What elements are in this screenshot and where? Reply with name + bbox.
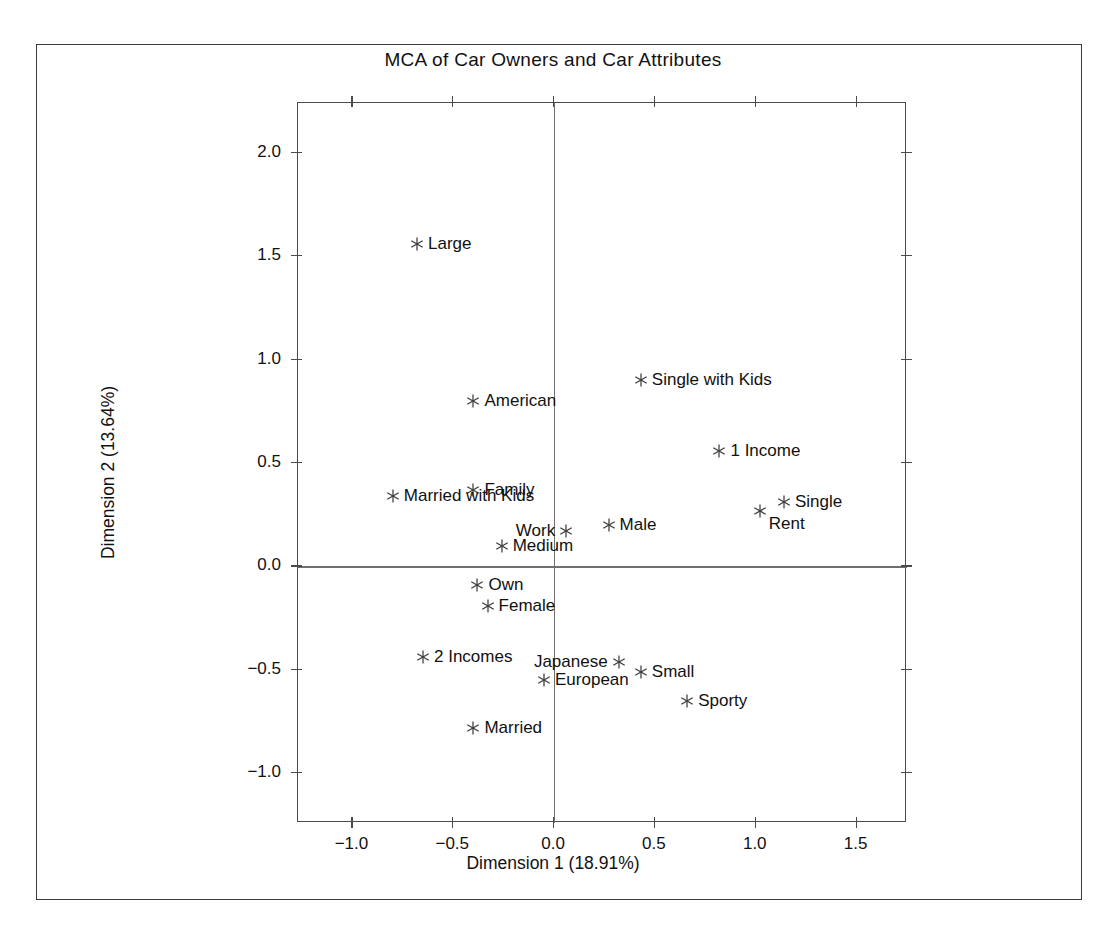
x-tick-mark-top xyxy=(452,96,453,107)
x-tick-mark xyxy=(755,817,756,828)
data-point-label: Sporty xyxy=(698,691,747,711)
asterisk-marker-icon xyxy=(466,720,481,735)
plot-area: LargeSingle with KidsAmerican1 IncomeFam… xyxy=(297,102,906,822)
data-point-label: Japanese xyxy=(534,652,608,672)
x-tick-label: 0.0 xyxy=(541,834,565,854)
data-point-label: European xyxy=(555,670,629,690)
y-tick-label: 0.5 xyxy=(207,452,281,472)
data-point-label: Single xyxy=(795,492,842,512)
y-tick-mark-right xyxy=(901,255,912,256)
data-point-label: 2 Incomes xyxy=(434,647,512,667)
y-tick-mark xyxy=(291,772,302,773)
x-tick-label: 0.5 xyxy=(642,834,666,854)
data-point-label: Married with Kids xyxy=(404,486,534,506)
horizontal-reference-line xyxy=(298,566,907,567)
asterisk-marker-icon xyxy=(385,489,400,504)
x-tick-mark-top xyxy=(654,96,655,107)
asterisk-marker-icon xyxy=(633,373,648,388)
asterisk-marker-icon xyxy=(494,538,509,553)
asterisk-marker-icon xyxy=(633,664,648,679)
asterisk-marker-icon xyxy=(611,654,626,669)
x-tick-mark xyxy=(553,817,554,828)
mca-scatter-figure: MCA of Car Owners and Car Attributes Dim… xyxy=(0,0,1106,934)
x-tick-mark xyxy=(856,817,857,828)
data-point-label: Own xyxy=(488,575,523,595)
asterisk-marker-icon xyxy=(416,650,431,665)
chart-title: MCA of Car Owners and Car Attributes xyxy=(0,49,1106,71)
vertical-reference-line xyxy=(554,103,555,823)
y-tick-mark xyxy=(291,152,302,153)
x-tick-mark-top xyxy=(856,96,857,107)
y-tick-label: 1.0 xyxy=(207,349,281,369)
y-tick-mark-right xyxy=(901,565,912,566)
y-axis-title: Dimension 2 (13.64%) xyxy=(98,303,119,643)
x-tick-label: −1.0 xyxy=(335,834,369,854)
y-tick-mark xyxy=(291,669,302,670)
data-point-label: Large xyxy=(428,234,471,254)
data-point-label: Married xyxy=(484,718,542,738)
asterisk-marker-icon xyxy=(752,503,767,518)
y-tick-mark-right xyxy=(901,462,912,463)
data-point-label: American xyxy=(484,391,556,411)
asterisk-marker-icon xyxy=(680,693,695,708)
y-tick-label: 2.0 xyxy=(207,142,281,162)
asterisk-marker-icon xyxy=(712,443,727,458)
y-tick-mark xyxy=(291,255,302,256)
x-tick-label: 1.0 xyxy=(743,834,767,854)
y-tick-label: 1.5 xyxy=(207,245,281,265)
y-tick-mark xyxy=(291,565,302,566)
x-tick-mark xyxy=(351,817,352,828)
asterisk-marker-icon xyxy=(466,393,481,408)
y-tick-label: −0.5 xyxy=(207,659,281,679)
asterisk-marker-icon xyxy=(409,236,424,251)
y-tick-mark-right xyxy=(901,359,912,360)
data-point-label: Small xyxy=(652,662,695,682)
data-point-label: Male xyxy=(620,515,657,535)
x-tick-mark-top xyxy=(553,96,554,107)
x-axis-title: Dimension 1 (18.91%) xyxy=(0,853,1106,874)
asterisk-marker-icon xyxy=(480,598,495,613)
data-point-label: Single with Kids xyxy=(652,370,772,390)
x-tick-label: −0.5 xyxy=(435,834,469,854)
y-tick-mark-right xyxy=(901,152,912,153)
x-tick-mark xyxy=(654,817,655,828)
y-tick-label: −1.0 xyxy=(207,762,281,782)
x-tick-mark xyxy=(452,817,453,828)
asterisk-marker-icon xyxy=(776,495,791,510)
asterisk-marker-icon xyxy=(601,518,616,533)
x-tick-mark-top xyxy=(351,96,352,107)
asterisk-marker-icon xyxy=(537,673,552,688)
asterisk-marker-icon xyxy=(470,578,485,593)
y-tick-mark xyxy=(291,462,302,463)
y-tick-label: 0.0 xyxy=(207,555,281,575)
data-point-label: Female xyxy=(499,596,556,616)
y-tick-mark-right xyxy=(901,669,912,670)
y-tick-mark-right xyxy=(901,772,912,773)
x-tick-label: 1.5 xyxy=(844,834,868,854)
x-tick-mark-top xyxy=(755,96,756,107)
y-tick-mark xyxy=(291,359,302,360)
data-point-label: Medium xyxy=(513,536,573,556)
data-point-label: 1 Income xyxy=(730,441,800,461)
data-point-label: Rent xyxy=(769,514,805,534)
